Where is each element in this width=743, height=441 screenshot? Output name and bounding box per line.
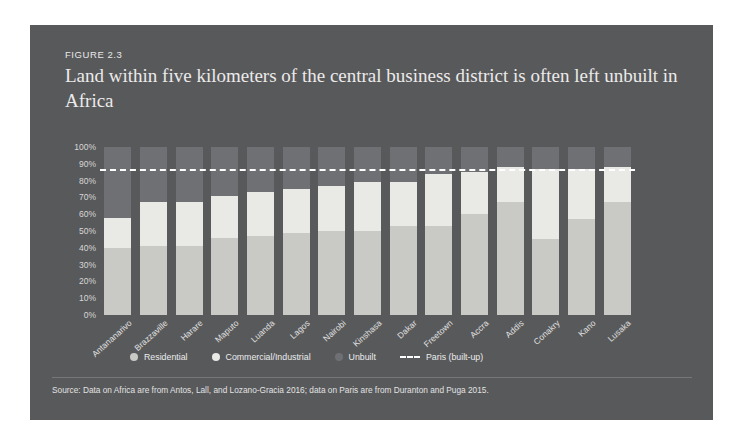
bar-segment-unbuilt [318, 147, 345, 186]
bar-segment-unbuilt [354, 147, 381, 182]
bar-segment-commercial-industrial [354, 182, 381, 231]
chart-plot-area: 100%90%80%70%60%50%40%30%20%10%0% Antana… [100, 122, 635, 315]
source-note: Source: Data on Africa are from Antos, L… [52, 385, 697, 397]
bar-segment-residential [211, 238, 238, 315]
bar-segment-residential [497, 202, 524, 315]
x-axis-label-kano: Kano [576, 318, 597, 339]
y-axis-tick-label: 20% [79, 276, 96, 286]
bar-nairobi[interactable] [318, 147, 345, 315]
bar-segment-unbuilt [390, 147, 417, 182]
bar-segment-commercial-industrial [497, 167, 524, 202]
bar-segment-commercial-industrial [140, 202, 167, 246]
x-axis-label-luanda: Luanda [248, 318, 276, 344]
bar-segment-unbuilt [568, 147, 595, 169]
bar-segment-commercial-industrial [532, 169, 559, 240]
legend-label: Commercial/Industrial [226, 352, 311, 362]
x-axis-label-antananarivo: Antananarivo [90, 318, 134, 359]
bar-segment-residential [425, 226, 452, 315]
legend-dot-icon [212, 353, 220, 361]
bar-segment-commercial-industrial [461, 172, 488, 214]
legend-label: Unbuilt [349, 352, 376, 362]
legend-item[interactable]: Paris (built-up) [400, 352, 483, 362]
legend-dot-icon [130, 353, 138, 361]
bar-segment-commercial-industrial [604, 167, 631, 202]
x-axis-label-harare: Harare [179, 318, 205, 343]
bar-segment-residential [604, 202, 631, 315]
legend-dot-icon [335, 353, 343, 361]
x-axis-label-brazzaville: Brazzaville [132, 318, 169, 353]
bar-segment-unbuilt [140, 147, 167, 202]
bar-segment-residential [461, 214, 488, 315]
x-axis-label-addis: Addis [503, 318, 525, 340]
y-axis-tick-label: 90% [79, 159, 96, 169]
bars-region [100, 147, 635, 315]
legend-dashed-line-icon [400, 356, 420, 358]
y-axis-tick-label: 80% [79, 176, 96, 186]
bar-segment-commercial-industrial [283, 189, 310, 233]
bar-segment-unbuilt [497, 147, 524, 167]
bar-segment-commercial-industrial [568, 169, 595, 219]
y-axis-tick-label: 100% [74, 142, 96, 152]
bar-segment-unbuilt [104, 147, 131, 218]
x-axis-label-freetown: Freetown [421, 318, 454, 349]
x-axis-label-conakry: Conakry [531, 318, 561, 347]
bar-brazzaville[interactable] [140, 147, 167, 315]
x-axis-label-accra: Accra [467, 318, 490, 340]
bar-conakry[interactable] [532, 147, 559, 315]
bar-segment-commercial-industrial [247, 192, 274, 236]
bar-segment-residential [568, 219, 595, 315]
x-axis-label-dakar: Dakar [395, 318, 419, 341]
bar-kano[interactable] [568, 147, 595, 315]
legend-label: Residential [144, 352, 188, 362]
source-divider [52, 377, 692, 378]
x-axis-label-nairobi: Nairobi [321, 318, 348, 343]
x-axis-label-kinshasa: Kinshasa [351, 318, 384, 349]
bar-segment-unbuilt [604, 147, 631, 167]
bar-segment-residential [532, 239, 559, 315]
bar-segment-residential [283, 233, 310, 315]
bar-segment-commercial-industrial [318, 186, 345, 231]
bar-segment-commercial-industrial [211, 196, 238, 238]
y-axis-tick-label: 10% [79, 293, 96, 303]
bar-segment-residential [318, 231, 345, 315]
y-axis-tick-label: 60% [79, 209, 96, 219]
chart-legend: ResidentialCommercial/IndustrialUnbuiltP… [130, 352, 483, 362]
bar-dakar[interactable] [390, 147, 417, 315]
bar-lusaka[interactable] [604, 147, 631, 315]
y-axis-tick-label: 30% [79, 260, 96, 270]
bar-addis[interactable] [497, 147, 524, 315]
y-axis-tick-label: 40% [79, 243, 96, 253]
bar-antananarivo[interactable] [104, 147, 131, 315]
bar-segment-commercial-industrial [390, 182, 417, 226]
bar-maputo[interactable] [211, 147, 238, 315]
bar-harare[interactable] [176, 147, 203, 315]
bar-segment-residential [354, 231, 381, 315]
legend-item[interactable]: Residential [130, 352, 188, 362]
bar-segment-unbuilt [532, 147, 559, 169]
bar-luanda[interactable] [247, 147, 274, 315]
bar-segment-commercial-industrial [176, 202, 203, 246]
x-axis-label-maputo: Maputo [213, 318, 241, 344]
bar-segment-unbuilt [176, 147, 203, 202]
bar-segment-residential [176, 246, 203, 315]
legend-item[interactable]: Unbuilt [335, 352, 376, 362]
bar-segment-unbuilt [211, 147, 238, 196]
bar-segment-commercial-industrial [104, 218, 131, 248]
bar-kinshasa[interactable] [354, 147, 381, 315]
bar-accra[interactable] [461, 147, 488, 315]
x-axis-label-lusaka: Lusaka [606, 318, 633, 344]
legend-item[interactable]: Commercial/Industrial [212, 352, 311, 362]
x-axis-labels: AntananarivoBrazzavilleHarareMaputoLuand… [100, 318, 635, 378]
bar-lagos[interactable] [283, 147, 310, 315]
paris-reference-line [100, 169, 635, 171]
bar-freetown[interactable] [425, 147, 452, 315]
figure-card: FIGURE 2.3 Land within five kilometers o… [30, 25, 713, 420]
bar-segment-commercial-industrial [425, 174, 452, 226]
figure-number: FIGURE 2.3 [65, 49, 122, 60]
bar-segment-residential [247, 236, 274, 315]
bar-segment-residential [104, 248, 131, 315]
y-axis-tick-label: 50% [79, 226, 96, 236]
legend-label: Paris (built-up) [426, 352, 483, 362]
bar-segment-residential [140, 246, 167, 315]
y-axis-tick-label: 70% [79, 192, 96, 202]
